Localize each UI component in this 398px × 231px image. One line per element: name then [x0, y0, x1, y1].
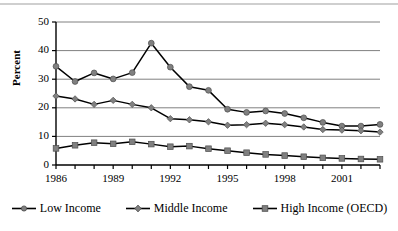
- y-tick-label-40: 40: [25, 43, 49, 55]
- data-point-2-1: [72, 142, 78, 148]
- data-point-2-11: [263, 152, 269, 158]
- data-point-0-2: [91, 70, 97, 76]
- data-point-0-8: [206, 87, 212, 93]
- data-point-2-15: [339, 156, 345, 162]
- data-point-0-7: [187, 84, 193, 90]
- data-point-1-13: [301, 124, 307, 130]
- chart-legend: Low Income Middle Income High Income (OE…: [0, 196, 398, 220]
- data-point-0-13: [301, 115, 307, 121]
- series-line-0: [56, 43, 380, 126]
- legend-item-low-income[interactable]: Low Income: [11, 202, 101, 214]
- data-point-2-0: [53, 146, 59, 152]
- data-point-1-1: [72, 96, 78, 102]
- data-point-1-9: [224, 122, 230, 128]
- data-point-2-8: [206, 146, 212, 152]
- data-point-2-10: [244, 150, 250, 156]
- data-point-2-13: [301, 154, 307, 160]
- x-tick-label-1998: 1998: [265, 172, 305, 184]
- data-point-1-4: [129, 101, 135, 107]
- data-point-0-3: [110, 76, 116, 82]
- data-point-2-2: [91, 140, 97, 146]
- data-point-1-5: [148, 105, 154, 111]
- data-point-1-0: [53, 93, 59, 99]
- y-tick-label-10: 10: [25, 129, 49, 141]
- legend-label-middle-income: Middle Income: [154, 202, 228, 214]
- data-point-0-11: [263, 108, 269, 114]
- data-point-2-17: [377, 156, 383, 162]
- data-point-2-9: [225, 148, 231, 154]
- series-line-1: [56, 96, 380, 132]
- data-point-1-14: [320, 126, 326, 132]
- data-point-2-5: [148, 141, 154, 147]
- data-point-2-16: [358, 156, 364, 162]
- data-point-1-3: [110, 97, 116, 103]
- data-point-0-6: [167, 64, 173, 70]
- data-point-2-4: [129, 139, 135, 145]
- legend-item-high-income-oecd[interactable]: High Income (OECD): [252, 202, 388, 214]
- x-tick-label-1986: 1986: [36, 172, 76, 184]
- y-tick-label-30: 30: [25, 72, 49, 84]
- x-tick-label-1989: 1989: [93, 172, 133, 184]
- data-point-0-14: [320, 119, 326, 125]
- data-point-0-9: [225, 106, 231, 112]
- y-tick-label-20: 20: [25, 100, 49, 112]
- data-point-2-7: [187, 143, 193, 149]
- data-point-1-8: [205, 119, 211, 125]
- data-point-1-2: [91, 101, 97, 107]
- legend-item-middle-income[interactable]: Middle Income: [125, 202, 228, 214]
- legend-label-high-income-oecd: High Income (OECD): [281, 202, 388, 214]
- data-point-2-12: [282, 153, 288, 159]
- data-point-1-6: [167, 115, 173, 121]
- data-point-2-14: [320, 155, 326, 161]
- data-point-0-10: [244, 109, 250, 115]
- data-point-0-1: [72, 79, 78, 85]
- chart-figure: Percent 01020304050198619891992199519982…: [0, 0, 398, 231]
- data-point-1-12: [282, 121, 288, 127]
- x-tick-label-2001: 2001: [322, 172, 362, 184]
- data-point-1-11: [262, 120, 268, 126]
- data-point-0-5: [148, 40, 154, 46]
- y-tick-label-50: 50: [25, 15, 49, 27]
- data-point-1-10: [243, 121, 249, 127]
- x-tick-label-1992: 1992: [150, 172, 190, 184]
- series-line-2: [56, 142, 380, 159]
- data-point-0-12: [282, 111, 288, 117]
- data-point-1-17: [377, 129, 383, 135]
- data-point-2-3: [110, 141, 116, 147]
- legend-swatch-square-icon: [252, 203, 278, 214]
- data-point-2-6: [168, 144, 174, 150]
- y-tick-label-0: 0: [25, 158, 49, 170]
- legend-swatch-diamond-icon: [125, 203, 151, 214]
- legend-label-low-income: Low Income: [40, 202, 101, 214]
- data-point-0-4: [129, 70, 135, 76]
- data-point-0-0: [53, 63, 59, 69]
- x-tick-label-1995: 1995: [208, 172, 248, 184]
- legend-swatch-circle-icon: [11, 203, 37, 214]
- data-point-0-17: [377, 121, 383, 127]
- data-point-1-7: [186, 117, 192, 123]
